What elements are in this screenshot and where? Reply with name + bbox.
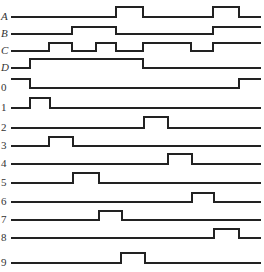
signal-row-B: B <box>1 27 261 39</box>
waveform <box>11 253 261 263</box>
signal-label: 5 <box>1 176 7 188</box>
signal-label: C <box>1 44 9 56</box>
signal-row-2: 2 <box>1 117 261 133</box>
timing-diagram: ABCD0123456789 <box>0 0 264 272</box>
waveform <box>11 117 261 128</box>
signal-label: 1 <box>1 101 7 113</box>
signal-label: 7 <box>1 213 7 225</box>
signal-row-D: D <box>0 59 261 73</box>
signal-row-7: 7 <box>1 211 261 225</box>
signal-row-C: C <box>1 43 261 56</box>
signal-label: B <box>1 27 8 39</box>
signal-label: 6 <box>1 195 7 207</box>
signal-row-0: 0 <box>1 79 261 93</box>
signal-label: 3 <box>1 139 7 151</box>
signal-row-4: 4 <box>1 154 261 169</box>
waveform <box>11 59 261 68</box>
signal-row-9: 9 <box>1 253 261 268</box>
waveform <box>11 79 261 88</box>
signal-label: 0 <box>1 81 7 93</box>
waveform <box>11 43 261 51</box>
signal-row-8: 8 <box>1 229 261 243</box>
signal-row-1: 1 <box>1 98 261 113</box>
signal-label: 2 <box>1 121 7 133</box>
signal-label: A <box>0 10 8 22</box>
signal-row-5: 5 <box>1 173 261 188</box>
signal-row-6: 6 <box>1 193 261 207</box>
waveform <box>11 98 261 108</box>
signal-rows: ABCD0123456789 <box>0 7 261 268</box>
signal-row-3: 3 <box>1 137 261 151</box>
signal-row-A: A <box>0 7 261 22</box>
waveform <box>11 27 261 34</box>
waveform <box>11 229 261 238</box>
signal-label: 9 <box>1 256 7 268</box>
waveform <box>11 193 261 202</box>
signal-label: 4 <box>1 157 7 169</box>
waveform <box>11 173 261 183</box>
waveform <box>11 211 261 220</box>
waveform <box>11 137 261 146</box>
waveform <box>11 154 261 164</box>
signal-label: D <box>0 61 9 73</box>
waveform <box>11 7 261 17</box>
signal-label: 8 <box>1 231 7 243</box>
